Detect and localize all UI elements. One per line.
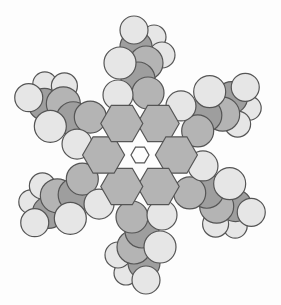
hydrogen-atom	[237, 198, 265, 226]
molecule-diagram	[0, 0, 281, 305]
hydrogen-atom	[194, 76, 226, 108]
hydrogen-atom	[54, 202, 86, 234]
hydrogen-atom	[132, 266, 160, 294]
carbon-atom	[174, 177, 206, 209]
hydrogen-atom	[231, 73, 259, 101]
ring-center	[131, 147, 149, 163]
carbon-atom	[132, 77, 164, 109]
hydrogen-atom	[21, 209, 49, 237]
carbon-atom	[116, 201, 148, 233]
hydrogen-atom	[144, 231, 176, 263]
hydrogen-atom	[214, 168, 246, 200]
hydrogen-atom	[120, 16, 148, 44]
hydrogen-atom	[104, 47, 136, 79]
carbon-atom	[74, 101, 106, 133]
hydrogen-atom	[15, 84, 43, 112]
space-filling-model	[0, 0, 281, 305]
hydrogen-atom	[34, 110, 66, 142]
